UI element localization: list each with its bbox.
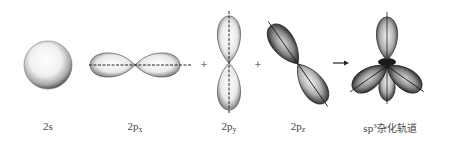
label-2py: 2py: [222, 120, 237, 134]
orbital-2pz: [259, 15, 338, 113]
orbital-2px: [89, 53, 191, 77]
orbital-2s: [24, 41, 72, 89]
plus-operator: +: [255, 58, 262, 72]
label-2pz: 2pz: [291, 120, 306, 134]
orbital-2py: [217, 11, 240, 114]
orbital-sp3: [344, 12, 430, 104]
label-2s: 2s: [43, 120, 53, 132]
plus-operator: +: [201, 58, 208, 72]
label-2px: 2px: [128, 120, 143, 134]
label-sp3-hybrid: sp3杂化轨道: [363, 120, 416, 135]
arrow-operator: [333, 61, 349, 66]
